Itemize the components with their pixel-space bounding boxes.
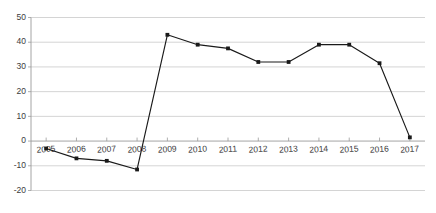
chart-canvas: 50403020100-10-2020052006200720082009201…	[0, 0, 436, 213]
x-tick-label: 2012	[248, 143, 268, 154]
x-tick-label: 2009	[157, 143, 177, 154]
y-tick-label: 0	[21, 135, 26, 145]
x-tick-label: 2014	[309, 143, 329, 154]
data-point	[256, 60, 260, 64]
data-point	[165, 33, 169, 37]
x-tick-label: 2010	[188, 143, 208, 154]
x-tick-label: 2006	[66, 143, 86, 154]
y-tick-label: 20	[17, 86, 27, 96]
y-axis-labels: 50403020100-10-20	[14, 12, 27, 195]
x-tick-label: 2011	[218, 143, 237, 154]
x-tick-label: 2017	[400, 143, 420, 154]
data-point	[75, 156, 79, 160]
y-tick-label: 50	[17, 12, 27, 22]
x-tick-label: 2008	[127, 143, 147, 154]
y-tick-label: -20	[14, 185, 27, 195]
x-tick-label: 2013	[279, 143, 299, 154]
y-tick-label: -10	[14, 160, 27, 170]
data-point	[347, 43, 351, 47]
data-point	[226, 46, 230, 50]
x-tick-label: 2015	[339, 143, 359, 154]
data-point	[105, 159, 109, 163]
data-point	[317, 43, 321, 47]
y-tick-label: 10	[17, 111, 27, 121]
data-point	[287, 60, 291, 64]
data-point	[378, 61, 382, 65]
y-tick-label: 40	[17, 36, 27, 46]
x-tick-label: 2016	[370, 143, 390, 154]
data-point	[135, 168, 139, 172]
x-tick-label: 2007	[97, 143, 117, 154]
axes	[31, 18, 425, 191]
data-point	[196, 43, 200, 47]
x-axis-labels: 2005200620072008200920102011201220132014…	[36, 143, 420, 154]
data-point	[408, 135, 412, 139]
line-chart: 50403020100-10-2020052006200720082009201…	[0, 0, 436, 213]
y-tick-label: 30	[17, 61, 27, 71]
data-point	[44, 147, 48, 151]
gridlines	[28, 18, 425, 191]
